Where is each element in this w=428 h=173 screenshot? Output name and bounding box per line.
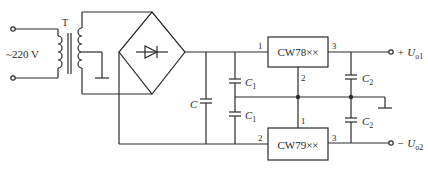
svg-text:3: 3	[332, 41, 337, 51]
c1-bottom-label: C1	[245, 109, 256, 124]
svg-text:CW78××: CW78××	[277, 46, 318, 58]
c2-top-label: C2	[362, 72, 373, 87]
svg-text:2: 2	[301, 73, 306, 83]
svg-text:3: 3	[332, 133, 337, 143]
svg-text:CW79××: CW79××	[277, 139, 318, 151]
capacitor-c1-pair	[229, 52, 241, 144]
capacitor-c	[200, 52, 212, 144]
output-terminal-pos	[389, 50, 393, 54]
svg-text:1: 1	[301, 116, 306, 126]
output-pos-label: + Uo1	[397, 46, 423, 61]
output-terminal-neg	[389, 141, 393, 145]
bridge-rectifier	[119, 12, 185, 94]
svg-text:1: 1	[258, 41, 263, 51]
c1-top-label: C1	[245, 76, 256, 91]
svg-text:2: 2	[258, 133, 263, 143]
transformer-label: T	[62, 17, 68, 28]
c2-bottom-label: C2	[362, 115, 373, 130]
circuit-diagram: ~220 V T C	[0, 0, 428, 173]
input-voltage-label: ~220 V	[6, 48, 39, 60]
capacitor-c-label: C	[190, 98, 198, 110]
diode-icon	[136, 46, 168, 58]
output-neg-label: − Uo2	[397, 137, 423, 152]
